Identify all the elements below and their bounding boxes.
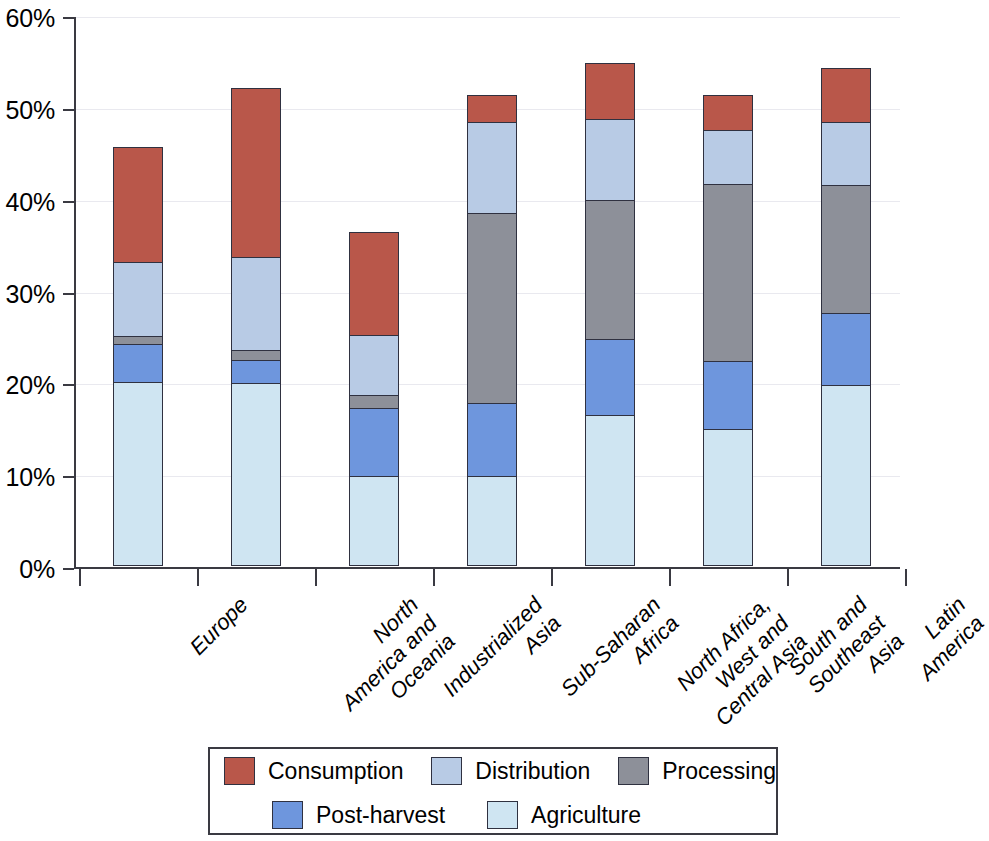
legend-item-distribution[interactable]: Distribution	[431, 757, 590, 785]
legend-swatch-agriculture	[487, 801, 518, 829]
bar-segment-agriculture[interactable]	[349, 476, 399, 566]
y-tick-label: 40%	[6, 187, 55, 216]
legend-row-2: Post-harvest Agriculture	[210, 793, 776, 837]
y-tick-60: 60%	[63, 17, 74, 19]
category-label-0: Europe	[185, 592, 254, 661]
x-tick-1	[315, 569, 317, 586]
y-tick-50: 50%	[63, 109, 74, 111]
bar-segment-distribution[interactable]	[113, 262, 163, 335]
bar-segment-distribution[interactable]	[703, 130, 753, 184]
bar-segment-post-harvest[interactable]	[231, 360, 281, 383]
legend-swatch-distribution	[431, 757, 462, 785]
y-tick-40: 40%	[63, 201, 74, 203]
gridline	[76, 17, 900, 18]
legend-label-consumption: Consumption	[268, 758, 404, 785]
bar-segment-post-harvest[interactable]	[703, 361, 753, 429]
bar-0[interactable]	[113, 147, 163, 566]
bar-segment-processing[interactable]	[585, 200, 635, 340]
y-tick-label: 0%	[19, 555, 55, 584]
legend: Consumption Distribution Processing Post…	[208, 747, 778, 835]
legend-label-post-harvest: Post-harvest	[316, 802, 445, 829]
bar-segment-agriculture[interactable]	[231, 383, 281, 566]
x-tick-2	[433, 569, 435, 586]
bar-segment-consumption[interactable]	[821, 68, 871, 121]
y-tick-label: 60%	[6, 4, 55, 33]
bar-1[interactable]	[231, 88, 281, 566]
legend-swatch-processing	[618, 757, 649, 785]
y-tick-label: 30%	[6, 279, 55, 308]
bar-6[interactable]	[821, 68, 871, 566]
category-label-2: Industrialized Asia	[438, 592, 566, 720]
bar-segment-agriculture[interactable]	[113, 382, 163, 566]
x-tick-0	[197, 569, 199, 586]
bar-segment-distribution[interactable]	[349, 335, 399, 396]
legend-swatch-consumption	[224, 757, 255, 785]
y-tick-label: 10%	[6, 463, 55, 492]
bar-segment-consumption[interactable]	[703, 95, 753, 130]
legend-row-1: Consumption Distribution Processing	[210, 749, 776, 793]
legend-label-distribution: Distribution	[475, 758, 590, 785]
bar-segment-distribution[interactable]	[231, 257, 281, 351]
x-tick-5	[787, 569, 789, 586]
bar-segment-agriculture[interactable]	[703, 429, 753, 566]
bar-segment-distribution[interactable]	[821, 122, 871, 185]
bar-segment-processing[interactable]	[349, 395, 399, 408]
legend-swatch-post-harvest	[272, 801, 303, 829]
bar-segment-processing[interactable]	[821, 185, 871, 314]
y-tick-20: 20%	[63, 384, 74, 386]
y-tick-label: 20%	[6, 371, 55, 400]
bar-2[interactable]	[349, 232, 399, 566]
y-tick-10: 10%	[63, 476, 74, 478]
bar-segment-processing[interactable]	[231, 350, 281, 360]
y-tick-30: 30%	[63, 293, 74, 295]
bar-segment-post-harvest[interactable]	[821, 313, 871, 385]
legend-label-processing: Processing	[662, 758, 776, 785]
x-tick-origin	[79, 569, 81, 586]
bar-5[interactable]	[703, 95, 753, 566]
bar-segment-distribution[interactable]	[585, 119, 635, 200]
bar-segment-post-harvest[interactable]	[585, 339, 635, 415]
bar-segment-consumption[interactable]	[113, 147, 163, 262]
y-tick-label: 50%	[6, 95, 55, 124]
legend-item-consumption[interactable]: Consumption	[224, 757, 404, 785]
x-tick-6	[905, 569, 907, 586]
legend-label-agriculture: Agriculture	[531, 802, 641, 829]
legend-item-post-harvest[interactable]: Post-harvest	[272, 801, 445, 829]
bar-segment-post-harvest[interactable]	[349, 408, 399, 476]
bar-segment-agriculture[interactable]	[821, 385, 871, 566]
bar-segment-consumption[interactable]	[467, 95, 517, 122]
x-tick-4	[669, 569, 671, 586]
bar-3[interactable]	[467, 95, 517, 566]
bar-segment-agriculture[interactable]	[585, 415, 635, 566]
plot-area: 60%50%40%30%20%10%0%	[74, 17, 900, 568]
bar-segment-post-harvest[interactable]	[113, 344, 163, 383]
bar-segment-distribution[interactable]	[467, 122, 517, 214]
bar-segment-consumption[interactable]	[231, 88, 281, 257]
bar-segment-processing[interactable]	[467, 213, 517, 402]
bar-segment-consumption[interactable]	[349, 232, 399, 335]
bar-segment-processing[interactable]	[703, 184, 753, 361]
bar-segment-post-harvest[interactable]	[467, 403, 517, 476]
category-label-1: North America and Oceania	[318, 592, 460, 734]
y-tick-0: 0%	[63, 568, 74, 570]
x-tick-3	[551, 569, 553, 586]
bar-segment-consumption[interactable]	[585, 63, 635, 119]
category-label-6: Latin America	[896, 592, 989, 686]
legend-item-agriculture[interactable]: Agriculture	[487, 801, 641, 829]
legend-item-processing[interactable]: Processing	[618, 757, 776, 785]
bar-4[interactable]	[585, 63, 635, 566]
bar-segment-processing[interactable]	[113, 336, 163, 344]
bar-segment-agriculture[interactable]	[467, 476, 517, 566]
category-label-3: Sub-Saharan Africa	[556, 592, 684, 720]
category-label-5: South and Southeast Asia	[783, 592, 909, 718]
